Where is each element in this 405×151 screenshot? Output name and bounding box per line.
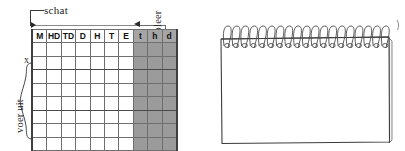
table-cell[interactable] xyxy=(32,83,47,97)
table-cell[interactable] xyxy=(104,97,118,111)
table-cell[interactable] xyxy=(133,83,147,97)
table-cell[interactable] xyxy=(104,124,118,138)
table-cell[interactable] xyxy=(162,110,177,124)
table-cell[interactable] xyxy=(90,110,104,124)
table-cell[interactable] xyxy=(104,70,118,84)
table-cell[interactable] xyxy=(104,43,118,57)
table-cell[interactable] xyxy=(61,97,75,111)
notepad-drawing xyxy=(205,0,405,151)
table-cell[interactable] xyxy=(162,83,177,97)
table-cell[interactable] xyxy=(119,70,133,84)
table-cell[interactable] xyxy=(162,137,177,151)
label-voer-uit: voer uit xyxy=(14,99,25,133)
table-cell[interactable] xyxy=(76,110,90,124)
table-cell[interactable] xyxy=(61,43,75,57)
table-cell[interactable] xyxy=(133,110,147,124)
table-cell[interactable] xyxy=(148,70,162,84)
table-cell[interactable] xyxy=(104,110,118,124)
table-cell[interactable] xyxy=(76,124,90,138)
table-header-row: MHDTDDHTEthd xyxy=(32,30,177,43)
table-cell[interactable] xyxy=(119,83,133,97)
table-cell[interactable] xyxy=(47,56,61,70)
column-header-t: t xyxy=(133,30,147,43)
table-cell[interactable] xyxy=(133,97,147,111)
table-cell[interactable] xyxy=(104,56,118,70)
table-cell[interactable] xyxy=(32,56,47,70)
table-cell[interactable] xyxy=(90,124,104,138)
table-cell[interactable] xyxy=(119,124,133,138)
table-cell[interactable] xyxy=(61,110,75,124)
table-cell[interactable] xyxy=(133,43,147,57)
table-cell[interactable] xyxy=(162,70,177,84)
table-cell[interactable] xyxy=(148,124,162,138)
table-cell[interactable] xyxy=(32,70,47,84)
table-cell[interactable] xyxy=(133,70,147,84)
table-cell[interactable] xyxy=(76,56,90,70)
table-row xyxy=(32,110,177,124)
table-cell[interactable] xyxy=(119,56,133,70)
table-cell[interactable] xyxy=(148,97,162,111)
table-cell[interactable] xyxy=(104,83,118,97)
table-cell[interactable] xyxy=(76,43,90,57)
table-cell[interactable] xyxy=(47,83,61,97)
table-cell[interactable] xyxy=(148,110,162,124)
table-row xyxy=(32,43,177,57)
table-row xyxy=(32,137,177,151)
estimate-arrow-left-icon xyxy=(134,21,140,27)
table-cell[interactable] xyxy=(119,43,133,57)
table-cell[interactable] xyxy=(61,70,75,84)
table-cell[interactable] xyxy=(47,124,61,138)
table-cell[interactable] xyxy=(32,110,47,124)
table-row xyxy=(32,124,177,138)
table-cell[interactable] xyxy=(90,137,104,151)
table-cell[interactable] xyxy=(90,56,104,70)
table-row xyxy=(32,56,177,70)
table-cell[interactable] xyxy=(32,137,47,151)
table-cell[interactable] xyxy=(61,137,75,151)
table-cell[interactable] xyxy=(148,43,162,57)
table-cell[interactable] xyxy=(162,56,177,70)
table-cell[interactable] xyxy=(162,43,177,57)
diagram-canvas: schat controleer x voer uit MHDTDDHTEthd xyxy=(0,0,405,151)
table-cell[interactable] xyxy=(32,124,47,138)
table-cell[interactable] xyxy=(76,70,90,84)
table-cell[interactable] xyxy=(90,43,104,57)
table-cell[interactable] xyxy=(133,124,147,138)
table-cell[interactable] xyxy=(47,110,61,124)
table-cell[interactable] xyxy=(47,97,61,111)
table-cell[interactable] xyxy=(90,97,104,111)
table-cell[interactable] xyxy=(133,56,147,70)
table-cell[interactable] xyxy=(76,137,90,151)
column-header-m: M xyxy=(32,30,47,43)
table-cell[interactable] xyxy=(148,56,162,70)
table-cell[interactable] xyxy=(32,43,47,57)
table-cell[interactable] xyxy=(76,83,90,97)
table-cell[interactable] xyxy=(61,56,75,70)
table-cell[interactable] xyxy=(104,137,118,151)
column-header-h: H xyxy=(90,30,104,43)
label-schat: schat xyxy=(44,4,68,16)
table-cell[interactable] xyxy=(47,43,61,57)
table-cell[interactable] xyxy=(162,97,177,111)
table-cell[interactable] xyxy=(133,137,147,151)
table-cell[interactable] xyxy=(119,110,133,124)
column-header-t: T xyxy=(104,30,118,43)
table-cell[interactable] xyxy=(119,97,133,111)
table-row xyxy=(32,97,177,111)
table-cell[interactable] xyxy=(119,137,133,151)
table-cell[interactable] xyxy=(47,70,61,84)
column-header-d: d xyxy=(162,30,177,43)
table-cell[interactable] xyxy=(148,83,162,97)
spiral-notepad-illustration xyxy=(205,0,405,151)
table-cell[interactable] xyxy=(90,83,104,97)
table-cell[interactable] xyxy=(61,83,75,97)
table-cell[interactable] xyxy=(61,124,75,138)
table-cell[interactable] xyxy=(76,97,90,111)
table-grid: MHDTDDHTEthd xyxy=(31,29,178,151)
table-cell[interactable] xyxy=(47,137,61,151)
table-cell[interactable] xyxy=(162,124,177,138)
column-header-hd: HD xyxy=(47,30,61,43)
table-cell[interactable] xyxy=(148,137,162,151)
table-cell[interactable] xyxy=(90,70,104,84)
table-cell[interactable] xyxy=(32,97,47,111)
